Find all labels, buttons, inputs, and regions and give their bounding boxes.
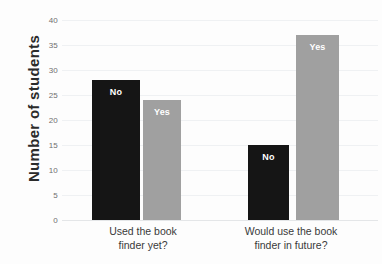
y-axis-tick-label: 35 [36, 41, 58, 50]
category-label-line-2: finder in future? [218, 238, 364, 252]
bar-1-yes[interactable]: Yes [296, 35, 339, 220]
y-axis-tick-label: 0 [36, 216, 58, 225]
y-axis-tick-label: 40 [36, 16, 58, 25]
bar-0-no[interactable]: No [92, 80, 140, 220]
gridline [62, 20, 378, 21]
y-axis-tick-label: 15 [36, 141, 58, 150]
bar-0-yes[interactable]: Yes [143, 100, 181, 220]
y-axis-tick-label: 10 [36, 166, 58, 175]
y-axis-tick-label: 20 [36, 116, 58, 125]
category-label-line-1: Would use the book [218, 224, 364, 238]
x-axis-category-label-1: Would use the book finder in future? [218, 224, 364, 252]
bar-value-label: Yes [296, 42, 339, 52]
y-axis-tick-label: 5 [36, 191, 58, 200]
bar-chart: Number of students NoYesNoYes 0510152025… [0, 0, 382, 264]
y-axis-tick-label: 30 [36, 66, 58, 75]
y-axis-tick-label: 25 [36, 91, 58, 100]
bar-value-label: No [248, 152, 289, 162]
bar-value-label: Yes [143, 107, 181, 117]
bar-1-no[interactable]: No [248, 145, 289, 220]
x-axis-category-label-0: Used the book finder yet? [78, 224, 208, 252]
bar-value-label: No [92, 87, 140, 97]
category-label-line-2: finder yet? [78, 238, 208, 252]
plot-area: NoYesNoYes [62, 20, 378, 220]
gridline [62, 220, 378, 221]
category-label-line-1: Used the book [78, 224, 208, 238]
